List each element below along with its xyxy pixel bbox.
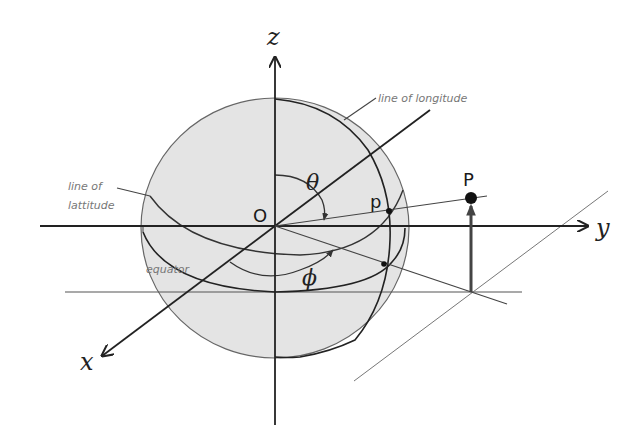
z-axis-label: z: [266, 23, 280, 51]
point-P-dot: [465, 192, 477, 204]
spherical-coordinates-diagram: z y x O p P θ ϕ line of longitude line o…: [0, 0, 641, 448]
longitude-annotation: line of longitude: [378, 92, 468, 105]
point-P-label: P: [463, 169, 474, 190]
latitude-leader: [117, 188, 150, 196]
point-p-label: p: [370, 191, 381, 212]
x-axis-label: x: [80, 348, 94, 376]
latitude-annotation-line1: line of: [68, 180, 104, 193]
equator-annotation: equator: [146, 263, 191, 276]
origin-label: O: [253, 205, 267, 226]
theta-label: θ: [306, 170, 319, 195]
y-axis-label: y: [595, 214, 610, 242]
phi-label: ϕ: [302, 265, 317, 290]
longitude-leader: [344, 98, 376, 120]
point-equator-dot: [381, 261, 387, 267]
point-p-dot: [386, 208, 392, 214]
latitude-annotation-line2: lattitude: [68, 199, 115, 212]
